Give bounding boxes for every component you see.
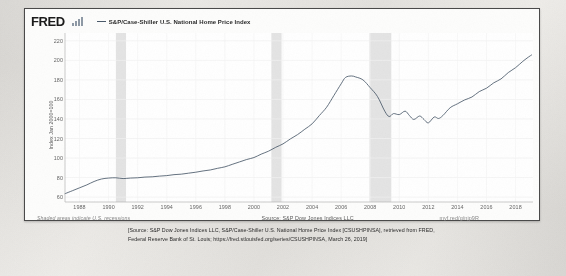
source-note: Source: S&P Dow Jones Indices LLC — [262, 215, 354, 221]
recession-note: Shaded areas indicate U.S. recessions — [37, 215, 130, 221]
x-axis-tick: 1992 — [131, 204, 143, 210]
x-axis-tick: 2010 — [393, 204, 405, 210]
x-axis-tick: 2006 — [335, 204, 347, 210]
x-axis-tick: 2014 — [451, 204, 463, 210]
legend-line-swatch — [97, 21, 106, 22]
x-axis-tick: 1994 — [161, 204, 173, 210]
x-axis-tick: 2018 — [509, 204, 521, 210]
bar-chart-icon — [72, 12, 83, 30]
plot-area-wrapper: Index Jan 2000=100 220200180160140120100… — [25, 29, 539, 220]
caption-line-1: [Source: S&P Dow Jones Indices LLC, S&P/… — [128, 226, 438, 235]
figure-caption: [Source: S&P Dow Jones Indices LLC, S&P/… — [128, 226, 438, 243]
legend-label: S&P/Case-Shiller U.S. National Home Pric… — [109, 19, 251, 25]
chart-header: FRED S&P/Case-Shiller U.S. National Home… — [25, 9, 539, 29]
caption-line-2: Federal Reserve Bank of St. Louis; https… — [128, 235, 438, 244]
x-axis-tick: 2016 — [480, 204, 492, 210]
x-axis-ticks: 1988199019921994199619982000200220042006… — [25, 202, 539, 214]
chart-legend: S&P/Case-Shiller U.S. National Home Pric… — [97, 19, 251, 25]
x-axis-tick: 2004 — [306, 204, 318, 210]
x-axis-tick: 2000 — [248, 204, 260, 210]
x-axis-tick: 1996 — [190, 204, 202, 210]
line-chart-plot — [25, 29, 541, 222]
short-url-note: myf.red/g/njp9R — [439, 215, 479, 221]
x-axis-tick: 2012 — [422, 204, 434, 210]
fred-logo: FRED — [31, 15, 65, 28]
x-axis-tick: 1990 — [102, 204, 114, 210]
x-axis-tick: 1988 — [73, 204, 85, 210]
fred-chart-card: FRED S&P/Case-Shiller U.S. National Home… — [24, 8, 540, 221]
x-axis-tick: 2008 — [364, 204, 376, 210]
x-axis-tick: 1998 — [219, 204, 231, 210]
x-axis-tick: 2002 — [277, 204, 289, 210]
